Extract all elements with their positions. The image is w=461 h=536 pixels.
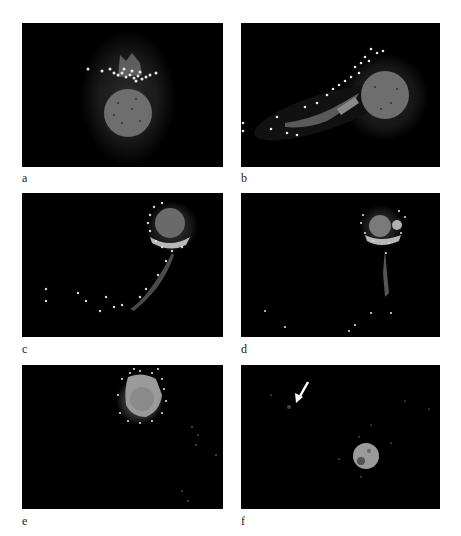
arrow-icon xyxy=(295,382,308,403)
panel-e-label: e xyxy=(22,515,27,527)
panel-f xyxy=(241,365,440,509)
panel-a-label: a xyxy=(22,172,27,184)
panel-d xyxy=(241,193,440,337)
panel-f-label: f xyxy=(241,515,245,527)
panel-e xyxy=(22,365,223,509)
panel-a-image xyxy=(22,23,223,167)
panel-b xyxy=(241,23,440,167)
panel-c xyxy=(22,193,223,337)
panel-b-image xyxy=(241,23,440,167)
panel-b-label: b xyxy=(241,172,247,184)
panel-c-image xyxy=(22,193,223,337)
panel-c-label: c xyxy=(22,343,27,355)
panel-e-image xyxy=(22,365,223,509)
panel-f-image xyxy=(241,365,440,509)
panel-d-image xyxy=(241,193,440,337)
panel-a xyxy=(22,23,223,167)
panel-d-label: d xyxy=(241,343,247,355)
